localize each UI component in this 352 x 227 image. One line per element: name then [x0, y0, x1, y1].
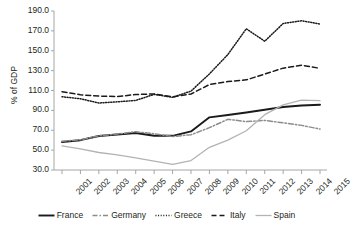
y-axis-tick-label: 130.0: [15, 65, 49, 75]
x-axis: [54, 170, 327, 174]
x-axis-tick-label: 2015: [332, 176, 352, 196]
legend-item-greece[interactable]: Greece: [155, 210, 202, 220]
y-axis-tick-label: 190.0: [15, 5, 49, 15]
y-axis-tick-label: 50.0: [15, 144, 49, 154]
y-axis-tick-label: 170.0: [15, 25, 49, 35]
y-axis-tick-label: 70.0: [15, 124, 49, 134]
y-axis-tick-label: 30.0: [15, 164, 49, 174]
series-line-greece: [62, 21, 320, 103]
legend-item-france[interactable]: France: [38, 210, 83, 220]
legend-swatch-italy-icon: [211, 212, 228, 219]
y-axis-tick-label: 150.0: [15, 45, 49, 55]
series-line-france: [62, 105, 320, 142]
legend-item-germany[interactable]: Germany: [92, 210, 146, 220]
legend-label: Germany: [111, 210, 146, 220]
legend-swatch-france-icon: [38, 212, 55, 219]
y-axis-tick-label: 90.0: [15, 104, 49, 114]
legend-label: Spain: [274, 210, 296, 220]
series-line-italy: [62, 65, 320, 97]
chart-legend: FranceGermanyGreeceItalySpain: [0, 207, 333, 223]
legend-swatch-spain-icon: [255, 212, 272, 219]
legend-item-spain[interactable]: Spain: [255, 210, 296, 220]
legend-label: Italy: [230, 210, 246, 220]
y-axis: [51, 11, 54, 170]
legend-label: France: [57, 210, 83, 220]
legend-item-italy[interactable]: Italy: [211, 210, 246, 220]
legend-swatch-greece-icon: [155, 212, 172, 219]
data-series-group: [62, 21, 320, 165]
y-axis-tick-label: 110.0: [15, 85, 49, 95]
legend-swatch-germany-icon: [92, 212, 109, 219]
legend-label: Greece: [174, 210, 202, 220]
